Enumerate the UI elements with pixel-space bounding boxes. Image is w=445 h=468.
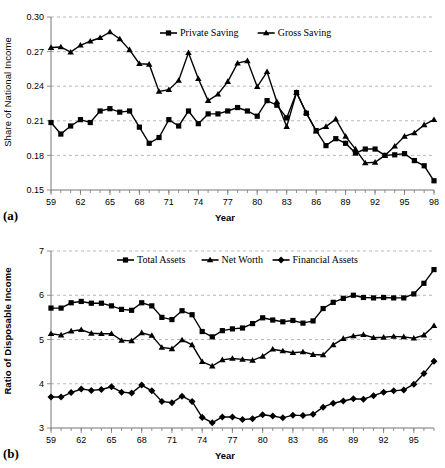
data-point-square	[402, 151, 407, 156]
data-point-triangle	[175, 77, 182, 83]
data-point-diamond	[229, 413, 236, 420]
data-point-triangle	[431, 116, 438, 122]
x-tick-label: 71	[167, 435, 177, 445]
data-point-square	[196, 121, 201, 126]
data-point-square	[260, 315, 265, 320]
data-point-square	[290, 318, 295, 323]
chart-panel-a: Share of National Income Year (a) 0.150.…	[0, 0, 445, 234]
data-point-square	[176, 123, 181, 128]
data-point-diamond	[88, 387, 95, 394]
data-point-square	[68, 123, 73, 128]
data-point-square	[107, 106, 112, 111]
x-tick-label: 68	[137, 435, 147, 445]
data-point-triangle	[185, 50, 192, 56]
legend-label: Net Worth	[222, 254, 264, 265]
data-point-diamond	[239, 416, 246, 423]
data-point-square	[149, 303, 154, 308]
y-tick-label: 0.18	[26, 151, 44, 161]
data-point-diamond	[278, 256, 285, 263]
data-point-square	[341, 296, 346, 301]
data-point-diamond	[289, 412, 296, 419]
data-point-square	[119, 307, 124, 312]
data-point-square	[169, 317, 174, 322]
data-point-square	[48, 120, 53, 125]
y-tick-label: 0.21	[26, 116, 44, 126]
data-point-square	[78, 117, 83, 122]
data-point-square	[411, 291, 416, 296]
data-point-square	[371, 295, 376, 300]
data-point-square	[361, 295, 366, 300]
data-point-square	[48, 305, 53, 310]
x-tick-label: 89	[348, 435, 358, 445]
chart-panel-b: Ratio of Disposable Income Year (b) 3456…	[0, 234, 445, 468]
y-tick-label: 3	[39, 423, 44, 433]
x-tick-label: 65	[106, 435, 116, 445]
data-point-square	[186, 108, 191, 113]
data-point-square	[300, 321, 305, 326]
data-point-square	[321, 306, 326, 311]
x-tick-label: 59	[46, 197, 56, 207]
data-point-square	[129, 308, 134, 313]
x-tick-label: 59	[46, 435, 56, 445]
series-line	[51, 93, 434, 181]
legend-item-private-saving: Private Saving	[160, 27, 239, 38]
data-point-diamond	[350, 395, 357, 402]
y-tick-label: 0.15	[26, 185, 44, 195]
data-point-triangle	[97, 35, 104, 41]
data-point-diamond	[47, 394, 54, 401]
x-tick-label: 68	[134, 197, 144, 207]
data-point-diamond	[400, 386, 407, 393]
data-point-diamond	[219, 413, 226, 420]
x-tick-label: 62	[75, 197, 85, 207]
y-tick-label: 0.27	[26, 47, 44, 57]
data-point-diamond	[58, 394, 65, 401]
data-point-square	[255, 114, 260, 119]
y-tick-label: 0.24	[26, 81, 44, 91]
panel-b-plot: 3456759626568717477808386899295Total Ass…	[0, 234, 445, 468]
x-tick-label: 74	[197, 435, 207, 445]
y-tick-label: 7	[39, 246, 44, 256]
x-tick-label: 95	[400, 197, 410, 207]
data-point-square	[333, 136, 338, 141]
data-point-square	[98, 108, 103, 113]
x-tick-label: 86	[318, 435, 328, 445]
data-point-diamond	[78, 386, 85, 393]
data-point-triangle	[107, 29, 114, 35]
data-point-diamond	[279, 414, 286, 421]
data-point-square	[401, 295, 406, 300]
x-tick-label: 83	[282, 197, 292, 207]
legend-label: Total Assets	[137, 254, 186, 265]
legend-label: Gross Saving	[278, 27, 332, 38]
y-tick-label: 4	[39, 379, 44, 389]
x-tick-label: 74	[193, 197, 203, 207]
data-point-square	[310, 318, 315, 323]
x-tick-label: 80	[252, 197, 262, 207]
data-point-diamond	[209, 419, 216, 426]
x-tick-label: 77	[223, 197, 233, 207]
data-point-square	[412, 158, 417, 163]
data-point-diamond	[199, 414, 206, 421]
legend-label: Financial Assets	[293, 254, 358, 265]
data-point-diamond	[189, 398, 196, 405]
data-point-square	[109, 303, 114, 308]
data-point-square	[147, 141, 152, 146]
x-tick-label: 65	[105, 197, 115, 207]
data-point-square	[210, 334, 215, 339]
data-point-triangle	[244, 58, 251, 64]
data-point-square	[351, 293, 356, 298]
series-financial-assets	[47, 358, 437, 427]
data-point-square	[89, 301, 94, 306]
data-point-square	[139, 300, 144, 305]
data-point-square	[58, 305, 63, 310]
data-point-triangle	[269, 346, 276, 352]
data-point-triangle	[431, 323, 438, 329]
data-point-triangle	[195, 75, 202, 81]
data-point-square	[431, 178, 436, 183]
series-line	[51, 361, 434, 423]
data-point-triangle	[342, 133, 349, 139]
legend-item-financial-assets: Financial Assets	[273, 254, 358, 265]
data-point-square	[79, 299, 84, 304]
data-point-square	[166, 117, 171, 122]
data-point-square	[245, 108, 250, 113]
data-point-diamond	[249, 415, 256, 422]
